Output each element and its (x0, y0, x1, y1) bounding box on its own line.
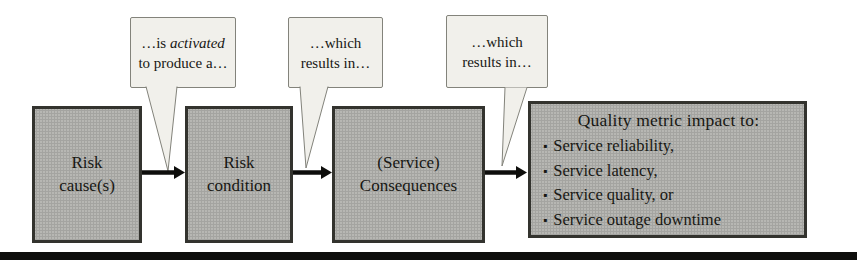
bullet-square-icon: ▪ (543, 160, 547, 184)
callout-text: …is activated to produce a… (134, 33, 232, 73)
box-risk-causes-label: Risk cause(s) (45, 152, 129, 197)
callout-text: …which results in… (450, 32, 544, 72)
quality-impact-list: ▪Service reliability, ▪Service latency, … (541, 134, 796, 232)
box-risk-condition: Risk condition (185, 106, 293, 243)
callout-is-activated: …is activated to produce a… (130, 17, 236, 88)
list-item: ▪Service outage downtime (543, 208, 796, 233)
box-risk-condition-label: Risk condition (198, 152, 280, 197)
bullet-square-icon: ▪ (543, 135, 547, 159)
bullet-square-icon: ▪ (543, 209, 547, 233)
list-item: ▪Service latency, (543, 159, 796, 184)
callout-which-results-in-1: …which results in… (288, 17, 383, 88)
bullet-square-icon: ▪ (543, 184, 547, 208)
list-item: ▪Service reliability, (543, 134, 796, 159)
callout-tail-3 (502, 88, 527, 167)
bottom-rule (0, 252, 857, 260)
list-item-text: Service quality, or (553, 185, 673, 204)
quality-impact-heading: Quality metric impact to: (541, 109, 796, 132)
callout-which-results-in-2: …which results in… (446, 15, 548, 88)
box-service-consequences: (Service) Consequences (332, 106, 485, 243)
box-service-consequences-label: (Service) Consequences (345, 152, 472, 197)
list-item-text: Service reliability, (553, 136, 674, 155)
arrow-head-icon-1 (174, 166, 185, 179)
box-quality-metric-impact: Quality metric impact to: ▪Service relia… (528, 101, 807, 238)
list-item-text: Service latency, (553, 161, 657, 180)
list-item: ▪Service quality, or (543, 183, 796, 208)
arrow-head-icon-2 (321, 166, 332, 179)
arrow-head-icon-3 (516, 166, 527, 179)
callout-text: …which results in… (292, 33, 379, 73)
callout-tail-1 (146, 87, 177, 172)
figure-canvas: Risk cause(s) Risk condition (Service) C… (0, 0, 857, 261)
callout-tail-2 (300, 87, 328, 169)
list-item-text: Service outage downtime (553, 210, 721, 229)
box-risk-causes: Risk cause(s) (32, 106, 142, 243)
